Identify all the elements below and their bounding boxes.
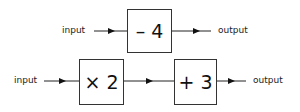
row2-multiply-box: × 2 <box>79 59 124 105</box>
row1-output-label: output <box>218 25 248 35</box>
row2-operation2-text: + 3 <box>178 71 212 93</box>
row2-output-label: output <box>253 75 283 85</box>
row1-input-arrow <box>94 28 127 34</box>
row2-input-arrow <box>44 78 79 84</box>
row2-input-label: input <box>14 75 37 85</box>
row1-subtract-box: – 4 <box>127 9 172 53</box>
row2-add-box: + 3 <box>174 59 217 105</box>
row1-operation-text: – 4 <box>136 20 164 42</box>
row1-input-label: input <box>62 25 85 35</box>
row2-middle-arrow <box>124 78 174 84</box>
row1-output-arrow <box>172 28 211 34</box>
row2-operation1-text: × 2 <box>84 71 118 93</box>
row2-output-arrow <box>217 78 246 84</box>
